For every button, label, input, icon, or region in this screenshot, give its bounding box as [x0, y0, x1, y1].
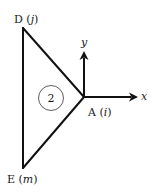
node-label-d: D (j) [14, 13, 38, 26]
node-d-name: D [14, 13, 23, 26]
edge-d-a [23, 28, 84, 97]
x-axis-label: x [141, 90, 148, 103]
coordinate-axes: x y [80, 36, 149, 103]
node-label-a: A (i) [87, 106, 112, 119]
element-number-badge: 2 [39, 86, 64, 111]
node-a-paren-close: ) [107, 106, 111, 119]
node-e-name: E [7, 173, 15, 186]
node-e-local: m [23, 173, 33, 186]
y-axis-label: y [80, 36, 88, 49]
edge-e-a [23, 97, 84, 168]
node-d-paren-close: ) [34, 13, 38, 26]
triangular-element-diagram: 2 x y D (j) A (i) E (m) [0, 0, 152, 193]
element-number: 2 [48, 92, 55, 105]
node-a-name: A [87, 106, 97, 119]
node-label-e: E (m) [7, 173, 38, 186]
node-e-paren-close: ) [33, 173, 37, 186]
